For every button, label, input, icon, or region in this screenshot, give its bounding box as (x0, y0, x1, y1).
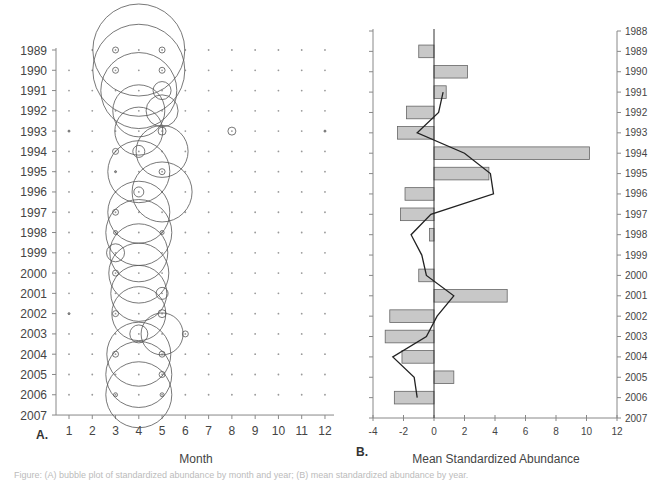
bar (434, 65, 468, 78)
figure: 1989199019911992199319941995199619971998… (0, 0, 668, 481)
bar (402, 351, 434, 364)
right-y-tick-label: 1995 (625, 168, 648, 179)
bar (434, 86, 446, 99)
right-y-tick-label: 2004 (625, 351, 648, 362)
x-tick-label: 10 (581, 426, 593, 437)
right-y-tick-label: 1990 (625, 66, 648, 77)
panel-label-b: B. (356, 445, 368, 459)
x-tick-label: -2 (399, 426, 408, 437)
x-tick-label: 0 (431, 426, 437, 437)
right-y-tick-label: 2001 (625, 290, 648, 301)
bar (434, 167, 489, 180)
bar (390, 310, 434, 323)
x-tick-label: 8 (553, 426, 559, 437)
right-y-tick-label: 2005 (625, 372, 648, 383)
right-y-tick-label: 1989 (625, 46, 648, 57)
x-axis-title: Mean Standardized Abundance (412, 452, 580, 466)
right-y-tick-label: 2002 (625, 311, 648, 322)
bar (419, 45, 434, 58)
x-tick-label: 12 (611, 426, 623, 437)
x-tick-label: -4 (369, 426, 378, 437)
x-tick-label: 6 (523, 426, 529, 437)
right-y-tick-label: 1992 (625, 107, 648, 118)
bar (434, 371, 454, 384)
bar (407, 106, 434, 119)
right-y-tick-label: 1994 (625, 148, 648, 159)
panel-b-bar-chart: 1988198919901991199219931994199519961997… (0, 0, 668, 470)
right-y-tick-label: 2000 (625, 270, 648, 281)
right-y-tick-label: 2003 (625, 331, 648, 342)
bar (394, 391, 434, 404)
figure-caption: Figure: (A) bubble plot of standardized … (14, 470, 654, 481)
right-y-tick-label: 1996 (625, 188, 648, 199)
right-y-tick-label: 1999 (625, 250, 648, 261)
bar (434, 147, 590, 160)
x-tick-label: 4 (492, 426, 498, 437)
bar (400, 208, 434, 221)
bar (405, 188, 434, 201)
bar (429, 228, 434, 241)
right-y-tick-label: 1997 (625, 209, 648, 220)
bar (434, 289, 507, 302)
right-y-tick-label: 1988 (625, 26, 648, 37)
right-y-tick-label: 2006 (625, 392, 648, 403)
x-tick-label: 2 (462, 426, 468, 437)
right-y-tick-label: 1998 (625, 229, 648, 240)
right-y-tick-label: 1993 (625, 127, 648, 138)
right-y-tick-label: 2007 (625, 413, 648, 424)
right-y-tick-label: 1991 (625, 87, 648, 98)
